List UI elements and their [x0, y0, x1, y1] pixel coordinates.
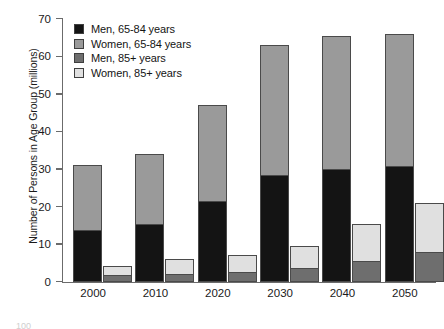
legend-label-women-65-84: Women, 65-84 years [91, 38, 191, 50]
chart-legend: Men, 65-84 years Women, 65-84 years Men,… [74, 22, 191, 80]
bar-2030-65-84 [260, 45, 289, 282]
bar-segment-women-85-years [416, 204, 443, 253]
bar-2050-65-84 [385, 34, 414, 281]
y-tick-label-30: 30 [38, 163, 51, 175]
legend-swatch-women-85plus [74, 68, 84, 78]
bar-2050-85plus [415, 203, 444, 282]
x-axis-label-2000: 2000 [62, 287, 124, 299]
bar-2040-65-84 [322, 36, 351, 282]
bar-segment-men-85-years [416, 253, 443, 281]
legend-swatch-women-65-84 [74, 39, 84, 49]
legend-item-men-65-84: Men, 65-84 years [74, 22, 191, 37]
x-axis-line [62, 282, 436, 283]
bar-segment-women-65-84-years [136, 155, 163, 225]
legend-label-women-85plus: Women, 85+ years [91, 67, 182, 79]
legend-label-men-85plus: Men, 85+ years [91, 52, 166, 64]
y-tick-label-60: 60 [38, 50, 51, 62]
x-axis-label-2040: 2040 [311, 287, 373, 299]
bar-segment-women-65-84-years [323, 37, 350, 170]
bar-group-2030 [249, 19, 311, 282]
bar-segment-women-65-84-years [261, 46, 288, 176]
bar-segment-men-65-84-years [323, 170, 350, 281]
legend-item-men-85plus: Men, 85+ years [74, 51, 191, 66]
legend-swatch-men-85plus [74, 53, 84, 63]
x-axis-label-2010: 2010 [124, 287, 186, 299]
bar-segment-women-65-84-years [386, 35, 413, 166]
legend-item-women-85plus: Women, 85+ years [74, 66, 191, 81]
y-tick-label-0: 0 [45, 276, 51, 288]
y-tick-label-10: 10 [38, 238, 51, 250]
bar-group-2050 [374, 19, 436, 282]
page-number-artifact: 100 [16, 321, 31, 329]
legend-swatch-men-65-84 [74, 24, 84, 34]
bar-chart: Number of Persons in Age Group (millions… [0, 0, 444, 329]
bar-segment-women-65-84-years [74, 166, 101, 231]
bar-segment-women-65-84-years [199, 106, 226, 201]
bar-segment-men-65-84-years [136, 225, 163, 280]
y-tick-label-20: 20 [38, 201, 51, 213]
x-axis-label-2030: 2030 [249, 287, 311, 299]
bar-segment-men-65-84-years [261, 176, 288, 280]
y-tick-label-40: 40 [38, 125, 51, 137]
x-axis-label-2020: 2020 [187, 287, 249, 299]
bar-segment-men-65-84-years [199, 202, 226, 281]
x-axis-label-2050: 2050 [374, 287, 436, 299]
bar-2000-65-84 [73, 165, 102, 281]
bar-2010-65-84 [135, 154, 164, 282]
legend-item-women-65-84: Women, 65-84 years [74, 37, 191, 52]
bar-group-2040 [311, 19, 373, 282]
bar-group-2020 [187, 19, 249, 282]
y-tick-label-50: 50 [38, 88, 51, 100]
bar-segment-men-65-84-years [74, 231, 101, 281]
y-axis-title: Number of Persons in Age Group (millions… [27, 21, 39, 271]
legend-label-men-65-84: Men, 65-84 years [91, 23, 175, 35]
y-tick-label-70: 70 [38, 13, 51, 25]
bar-segment-men-65-84-years [386, 167, 413, 281]
bar-2020-65-84 [198, 105, 227, 282]
